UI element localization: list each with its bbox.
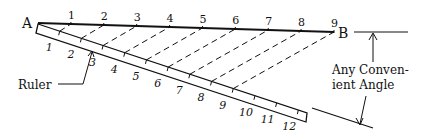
angle-line (312, 108, 373, 128)
ruler-mark-label: 5 (132, 70, 139, 83)
ruler-mark-label: 10 (239, 106, 253, 119)
label-point-a: A (21, 15, 33, 31)
label-angle-1: Any Conven- (331, 63, 409, 77)
ruler-pointer (58, 52, 92, 84)
ab-division-label: 4 (167, 12, 174, 25)
ruler-mark-label: 7 (176, 84, 183, 97)
label-angle-2: ient Angle (332, 78, 394, 92)
ruler-mark-label: 11 (261, 113, 275, 126)
line-ab (38, 23, 334, 32)
ruler-shape (36, 24, 307, 122)
ab-division-label: 9 (331, 17, 338, 30)
ruler-mark-label: 9 (219, 99, 226, 112)
ruler-mark-label: 6 (154, 77, 161, 90)
ruler-mark-label: 8 (198, 91, 205, 104)
ab-division-label: 7 (265, 15, 272, 28)
label-point-b: B (338, 25, 348, 41)
ruler-mark-label: 12 (282, 120, 296, 133)
ruler-mark-label: 3 (89, 56, 96, 69)
ab-division-label: 2 (101, 10, 108, 23)
ruler-mark-label: 2 (66, 48, 74, 61)
angle-arrow-down (360, 96, 366, 124)
division-diagram: A B Ruler Any Conven- ient Angle 1234567… (0, 0, 428, 140)
ab-division-label: 3 (134, 11, 141, 24)
ab-division-label: 8 (298, 16, 305, 29)
ab-division-label: 6 (232, 14, 239, 27)
parallel-dashed-lines (60, 24, 334, 89)
ruler-mark-label: 4 (110, 63, 118, 76)
label-ruler: Ruler (18, 78, 52, 92)
ab-division-label: 5 (199, 13, 206, 26)
ab-division-label: 1 (68, 9, 75, 22)
diagram-canvas: A B Ruler Any Conven- ient Angle 1234567… (0, 0, 428, 140)
ruler-mark-label: 1 (46, 41, 53, 54)
